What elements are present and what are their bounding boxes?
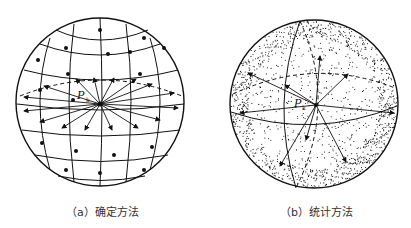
sphere-deterministic: P k <box>16 18 184 186</box>
sphere-statistical: P k <box>230 20 398 188</box>
point-subscript-a: k <box>86 96 90 103</box>
point-label-b: P <box>293 97 302 110</box>
point-label-a: P <box>76 89 85 102</box>
caption-a: （a）确定方法 <box>66 203 139 219</box>
point-subscript-b: k <box>302 104 306 111</box>
caption-b: （b）统计方法 <box>280 203 353 219</box>
figure-canvas: P k P k <box>0 0 411 228</box>
